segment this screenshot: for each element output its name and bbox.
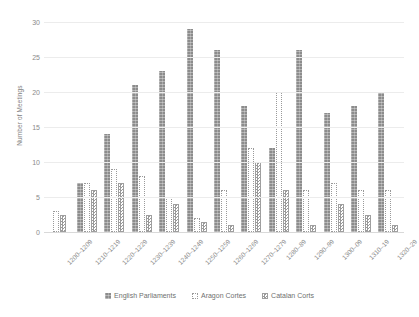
grid-line (44, 22, 404, 23)
bar (201, 222, 207, 233)
y-axis-tick-30: 30 (20, 19, 40, 26)
grid-line (44, 127, 404, 128)
legend-item[interactable]: English Parliaments (105, 292, 176, 299)
x-axis-tick-label: 1230–1239 (148, 238, 176, 266)
bar (84, 183, 90, 232)
bar (173, 204, 179, 232)
x-axis-tick-label: 1280–89 (285, 238, 308, 261)
legend-label: Aragon Cortes (201, 292, 246, 299)
bar (241, 106, 247, 232)
x-axis-tick-label: 1250–1259 (204, 238, 232, 266)
bar (269, 148, 275, 232)
chart-title (0, 0, 419, 3)
bar (214, 50, 220, 232)
legend-swatch-icon (105, 293, 111, 299)
x-axis-tick-label: 1310–19 (368, 238, 391, 261)
x-axis-tick-label: 1240–1249 (176, 238, 204, 266)
bar (111, 169, 117, 232)
x-axis-tick-label: 1220–1229 (121, 238, 149, 266)
bar (324, 113, 330, 232)
bar (166, 197, 172, 232)
y-axis-tick-15: 15 (20, 124, 40, 131)
y-axis-label: Number of Meetings (16, 71, 23, 161)
bar (248, 148, 254, 232)
bar (351, 106, 357, 232)
bar (53, 211, 59, 232)
grid-line (44, 92, 404, 93)
bar (139, 176, 145, 232)
bar (132, 85, 138, 232)
x-axis-line (44, 232, 404, 233)
legend-label: English Parliaments (114, 292, 176, 299)
y-axis-tick-5: 5 (20, 194, 40, 201)
chart-legend: English ParliamentsAragon CortesCatalan … (0, 292, 419, 299)
legend-swatch-icon (192, 293, 198, 299)
bar-chart: Number of Meetings 1200–12091210–1219122… (0, 0, 419, 317)
x-axis-tick-label: 1320–29 (396, 238, 419, 261)
x-axis-tick-label: 1200–1209 (65, 238, 93, 266)
grid-line (44, 162, 404, 163)
bar (159, 71, 165, 232)
bar (228, 225, 234, 232)
y-axis-tick-0: 0 (20, 229, 40, 236)
x-axis-tick-label: 1210–1219 (93, 238, 121, 266)
x-axis-tick-labels: 1200–12091210–12191220–12291230–12391240… (44, 234, 404, 292)
y-axis-tick-20: 20 (20, 89, 40, 96)
legend-swatch-icon (262, 293, 268, 299)
x-axis-tick-label: 1290–99 (312, 238, 335, 261)
x-axis-tick-label: 1270–1279 (259, 238, 287, 266)
legend-item[interactable]: Aragon Cortes (192, 292, 246, 299)
y-axis-tick-10: 10 (20, 159, 40, 166)
bar (331, 183, 337, 232)
bar (365, 215, 371, 233)
bar (60, 215, 66, 233)
bar (296, 50, 302, 232)
bar (310, 225, 316, 232)
bar (338, 204, 344, 232)
x-axis-tick-label: 1260–1269 (232, 238, 260, 266)
bar (118, 183, 124, 232)
legend-item[interactable]: Catalan Corts (262, 292, 314, 299)
grid-line (44, 57, 404, 58)
legend-label: Catalan Corts (271, 292, 314, 299)
x-axis-tick-label: 1300–09 (340, 238, 363, 261)
bar (194, 218, 200, 232)
y-axis-tick-25: 25 (20, 54, 40, 61)
bar (104, 134, 110, 232)
bar (77, 183, 83, 232)
bar (146, 215, 152, 233)
grid-line (44, 197, 404, 198)
bar (187, 29, 193, 232)
bar (392, 225, 398, 232)
